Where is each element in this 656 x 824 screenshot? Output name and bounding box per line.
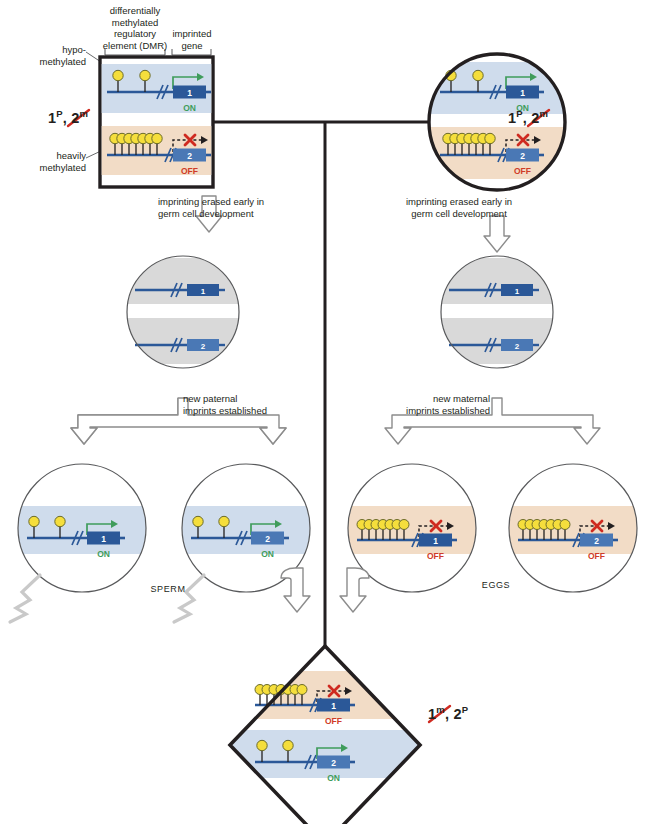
imprinted-gene-line-1: imprinted <box>158 28 226 40</box>
svg-text:1: 1 <box>187 88 192 98</box>
svg-text:2: 2 <box>515 342 520 351</box>
svg-text:ON: ON <box>327 773 340 783</box>
genotype-parent-left: 1P, 2m <box>48 108 88 126</box>
svg-text:ON: ON <box>97 549 110 559</box>
heavy-line-1: heavily <box>8 150 86 162</box>
cell-parent-left: 1 ON 2 <box>100 57 213 187</box>
heavy-line-2: methylated <box>8 162 86 174</box>
imprinted-gene-line-2: gene <box>158 40 226 52</box>
svg-text:2: 2 <box>187 151 192 161</box>
cell-zygote: 1 OFF 2 ON <box>230 646 425 824</box>
dmr-label-line-1: differentially <box>93 5 177 17</box>
diagram-canvas: 1 ON 2 <box>0 0 656 824</box>
svg-text:ON: ON <box>183 103 196 113</box>
imprinted-gene-label: imprinted gene <box>158 28 226 51</box>
svg-text:ON: ON <box>261 549 274 559</box>
genotype-parent-right-sup-2: m <box>540 108 549 119</box>
paternal-imprints-caption: new paternal imprints established <box>183 393 291 416</box>
genotype-parent-right-allele-2: 2 <box>531 110 539 126</box>
maternal-line-2: imprints established <box>382 405 490 417</box>
svg-text:1: 1 <box>331 701 336 711</box>
cell-parent-right: 1 ON 2 <box>425 54 571 190</box>
svg-text:1: 1 <box>433 536 438 546</box>
svg-text:2: 2 <box>520 151 525 161</box>
svg-text:1: 1 <box>201 287 206 296</box>
maternal-imprints-caption: new maternal imprints established <box>382 393 490 416</box>
cell-erased-left: 1 2 <box>127 256 239 368</box>
sperm-tail-1 <box>10 575 40 622</box>
svg-text:2: 2 <box>331 758 336 768</box>
cell-sperm-1: 1 ON <box>10 464 154 622</box>
erase-left-line-2: germ cell development <box>158 208 308 220</box>
genotype-parent-left-sup-2: m <box>80 108 89 119</box>
hypomethylated-label: hypo- methylated <box>8 44 86 67</box>
eggs-label: EGGS <box>466 580 526 592</box>
genotype-parent-right: 1P, 2m <box>508 108 548 126</box>
svg-text:2: 2 <box>594 536 599 546</box>
dmr-label-line-2: methylated <box>93 17 177 29</box>
erase-arrow-right <box>484 216 510 252</box>
hypo-line-1: hypo- <box>8 44 86 56</box>
erase-right-line-1: imprinting erased early in <box>384 196 534 208</box>
svg-text:OFF: OFF <box>325 716 342 726</box>
erase-right-caption: imprinting erased early in germ cell dev… <box>384 196 534 219</box>
svg-text:OFF: OFF <box>427 551 444 561</box>
svg-text:OFF: OFF <box>514 166 531 176</box>
genotype-zygote-allele-2: 2 <box>453 706 461 722</box>
imprinting-diagram: 1 ON 2 <box>0 0 656 824</box>
maternal-line-1: new maternal <box>382 393 490 405</box>
erase-left-line-1: imprinting erased early in <box>158 196 308 208</box>
hypo-line-2: methylated <box>8 56 86 68</box>
erase-right-line-2: germ cell development <box>384 208 534 220</box>
sperm-label: SPERM <box>138 584 198 596</box>
svg-text:1: 1 <box>520 88 525 98</box>
sperm-tail-2 <box>174 575 204 622</box>
genotype-zygote: 1m, 2P <box>428 704 468 722</box>
genotype-parent-left-allele-2: 2 <box>71 110 79 126</box>
svg-text:OFF: OFF <box>181 166 198 176</box>
svg-text:OFF: OFF <box>588 551 605 561</box>
paternal-line-2: imprints established <box>183 405 291 417</box>
genotype-zygote-sup-1: m <box>436 704 445 715</box>
erase-left-caption: imprinting erased early in germ cell dev… <box>158 196 308 219</box>
paternal-line-1: new paternal <box>183 393 291 405</box>
genotype-parent-right-sep: , <box>523 110 531 126</box>
genotype-zygote-sup-2: P <box>462 704 469 715</box>
cell-egg-2: 2 OFF <box>505 464 645 592</box>
svg-text:2: 2 <box>265 534 270 544</box>
cell-erased-right: 1 2 <box>441 256 553 368</box>
svg-text:1: 1 <box>515 287 520 296</box>
genotype-parent-left-sep: , <box>63 110 71 126</box>
svg-text:1: 1 <box>101 534 106 544</box>
svg-text:2: 2 <box>201 342 206 351</box>
heavily-methylated-label: heavily methylated <box>8 150 86 173</box>
